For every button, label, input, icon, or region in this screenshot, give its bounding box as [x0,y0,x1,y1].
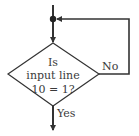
no-label: No [102,60,119,73]
decision-line-1: Is [48,56,58,69]
decision-line-2: input line [26,69,79,82]
junction-dot [50,16,56,22]
decision-line-3: 10 = 1? [31,83,74,96]
yes-label: Yes [56,107,76,120]
flowchart: Is input line 10 = 1? No Yes [0,0,139,136]
